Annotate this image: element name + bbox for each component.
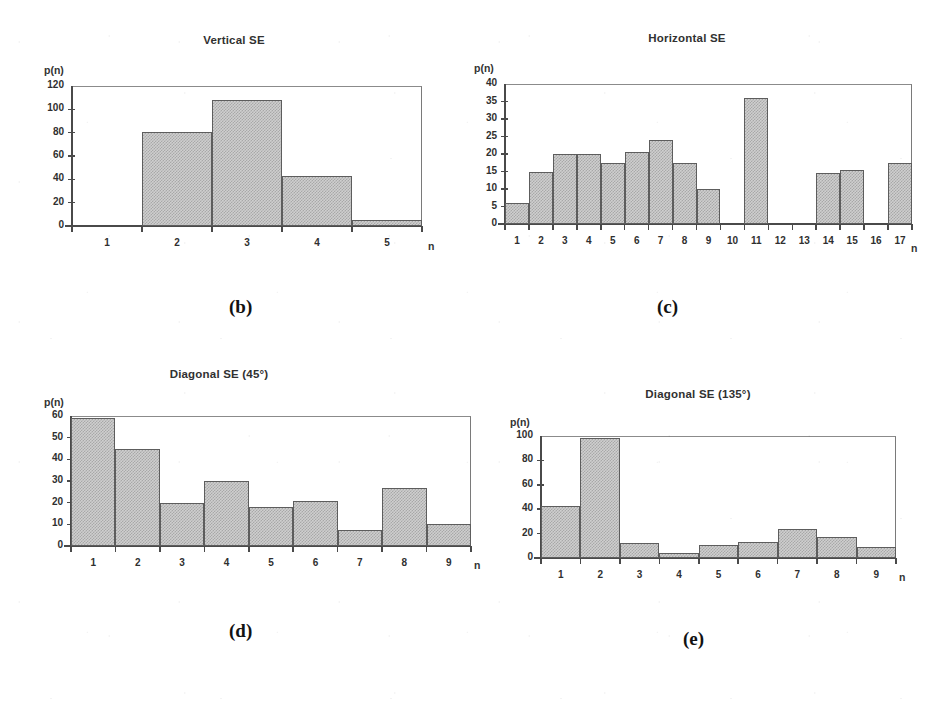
histogram-bar [817, 537, 856, 558]
x-tick-label: 17 [882, 235, 918, 246]
histogram-bar [529, 172, 553, 225]
x-tick-mark [863, 224, 865, 230]
y-tick-label: 60 [26, 149, 64, 160]
y-tick-label: 30 [459, 112, 497, 123]
histogram-bar [505, 203, 529, 224]
histogram-bar [673, 163, 697, 224]
panel-diagonal-45-se: Diagonal SE (45°) p(n) n 010203040506012… [24, 368, 464, 658]
x-tick-label: 8 [386, 557, 422, 568]
histogram-bar [352, 220, 422, 226]
x-tick-mark [839, 224, 841, 230]
x-tick-label: 4 [661, 569, 697, 580]
y-tick-mark [68, 155, 75, 157]
x-tick-mark [248, 546, 250, 552]
x-tick-mark [816, 558, 818, 564]
y-tick-label: 0 [26, 219, 64, 230]
x-tick-mark [381, 546, 383, 552]
x-tick-label: 6 [740, 569, 776, 580]
y-tick-label: 0 [459, 217, 497, 228]
x-tick-label: 5 [369, 237, 405, 248]
y-tick-label: 50 [25, 431, 63, 442]
x-tick-label: 3 [229, 237, 265, 248]
x-tick-mark [580, 558, 582, 564]
histogram-bar [282, 176, 352, 226]
x-tick-mark [337, 546, 339, 552]
y-tick-label: 20 [495, 527, 533, 538]
x-tick-mark [720, 224, 722, 230]
x-tick-mark [744, 224, 746, 230]
x-tick-label: 4 [209, 557, 245, 568]
panel-diagonal-135-se: Diagonal SE (135°) p(n) n 02040608010012… [498, 388, 928, 668]
y-tick-mark [68, 179, 75, 181]
histogram-bar [659, 553, 698, 558]
x-tick-label: 6 [297, 557, 333, 568]
x-tick-mark [281, 226, 283, 232]
y-tick-label: 0 [25, 539, 63, 550]
x-tick-mark [696, 224, 698, 230]
x-tick-mark [600, 224, 602, 230]
y-tick-label: 80 [495, 453, 533, 464]
x-tick-mark [211, 226, 213, 232]
y-tick-label: 120 [26, 79, 64, 90]
y-tick-label: 5 [459, 200, 497, 211]
x-tick-mark [737, 558, 739, 564]
y-axis-label-horizontal-se: p(n) [474, 62, 494, 74]
y-tick-label: 40 [25, 452, 63, 463]
x-tick-mark [470, 546, 472, 552]
y-tick-mark [537, 460, 544, 462]
histogram-bar [744, 98, 768, 224]
y-tick-mark [501, 171, 508, 173]
chart-title-diagonal-45-se: Diagonal SE (45°) [24, 368, 414, 380]
histogram-bar [160, 503, 204, 546]
histogram-bar [857, 547, 896, 558]
x-axis-label-diagonal-135-se: n [899, 571, 905, 583]
y-tick-label: 0 [495, 551, 533, 562]
x-tick-label: 5 [253, 557, 289, 568]
y-axis-label-diagonal-135-se: p(n) [510, 416, 530, 428]
histogram-bar [212, 100, 282, 226]
x-tick-label: 3 [164, 557, 200, 568]
histogram-bar [620, 543, 659, 558]
histogram-bar [840, 170, 864, 224]
y-tick-mark [501, 118, 508, 120]
x-tick-mark [856, 558, 858, 564]
histogram-bar [625, 152, 649, 224]
chart-title-vertical-se: Vertical SE [34, 34, 434, 46]
y-tick-mark [537, 484, 544, 486]
plot-area-vertical-se: p(n) n 02040608010012012345 [24, 64, 444, 269]
x-tick-mark [421, 226, 423, 232]
panel-horizontal-se: Horizontal SE p(n) n 0510152025303540123… [462, 32, 924, 332]
x-tick-mark [624, 224, 626, 230]
histogram-bar [338, 530, 382, 546]
histogram-bar [71, 418, 115, 546]
x-tick-mark [672, 224, 674, 230]
plot-area-horizontal-se: p(n) n 051015202530354012345678910111213… [462, 62, 924, 267]
histogram-bar [738, 542, 777, 558]
x-tick-label: 2 [120, 557, 156, 568]
subfigure-label-b: (b) [229, 296, 252, 318]
y-tick-label: 20 [459, 147, 497, 158]
histogram-bar [204, 481, 248, 546]
x-tick-mark [698, 558, 700, 564]
x-tick-mark [659, 558, 661, 564]
x-tick-mark [540, 558, 542, 564]
x-tick-mark [504, 224, 506, 230]
y-tick-label: 40 [26, 172, 64, 183]
x-tick-mark [576, 224, 578, 230]
y-tick-label: 15 [459, 165, 497, 176]
x-tick-mark [159, 546, 161, 552]
y-tick-label: 20 [25, 496, 63, 507]
y-tick-mark [501, 188, 508, 190]
y-tick-label: 60 [25, 409, 63, 420]
y-tick-label: 100 [26, 102, 64, 113]
y-tick-label: 30 [25, 474, 63, 485]
x-tick-label: 1 [89, 237, 125, 248]
histogram-bar [577, 154, 601, 224]
y-tick-label: 40 [495, 502, 533, 513]
y-tick-label: 100 [495, 429, 533, 440]
y-axis-label-vertical-se: p(n) [44, 64, 64, 76]
y-tick-label: 10 [25, 517, 63, 528]
histogram-bar [601, 163, 625, 224]
histogram-bar [699, 545, 738, 558]
histogram-bar [382, 488, 426, 547]
